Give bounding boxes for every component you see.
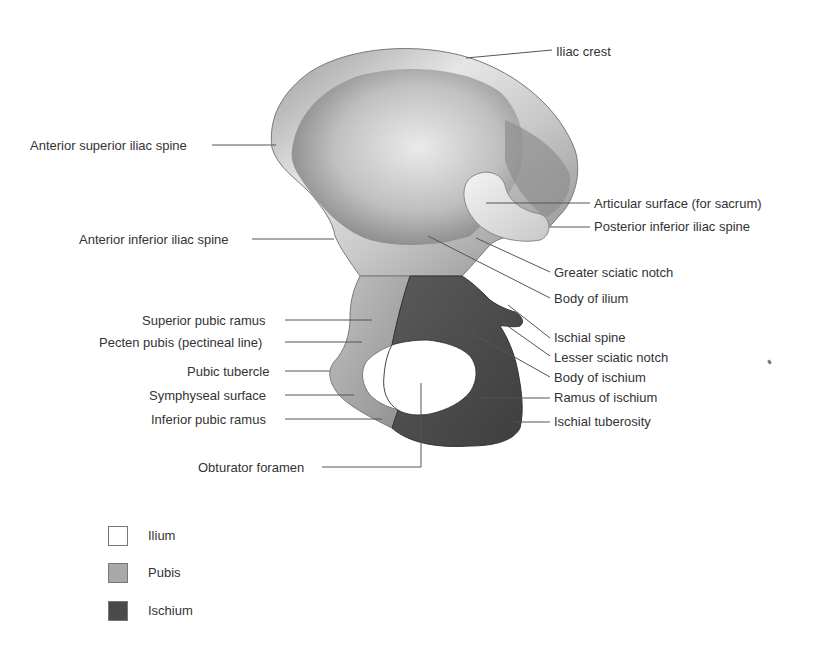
label-body-of-ischium: Body of ischium [554, 370, 646, 385]
label-obturator-foramen: Obturator foramen [198, 460, 304, 475]
label-pecten-pubis: Pecten pubis (pectineal line) [99, 335, 262, 350]
label-lesser-sciatic-notch: Lesser sciatic notch [554, 350, 668, 365]
legend-label: Ilium [148, 528, 175, 543]
label-articular-surface: Articular surface (for sacrum) [594, 196, 762, 211]
label-greater-sciatic-notch: Greater sciatic notch [554, 265, 673, 280]
legend-label: Ischium [148, 603, 193, 618]
label-iliac-crest: Iliac crest [556, 44, 611, 59]
label-symphyseal-surface: Symphyseal surface [149, 388, 266, 403]
label-ramus-of-ischium: Ramus of ischium [554, 390, 657, 405]
legend-label: Pubis [148, 565, 181, 580]
ischium-swatch [108, 601, 128, 621]
label-body-of-ilium: Body of ilium [554, 291, 628, 306]
ilium-swatch [108, 526, 128, 546]
label-ischial-spine: Ischial spine [554, 330, 626, 345]
label-anterior-superior-iliac-spine: Anterior superior iliac spine [30, 138, 187, 153]
hip-bone-diagram [0, 0, 819, 646]
pubis-swatch [108, 563, 128, 583]
label-posterior-inferior-iliac-spine: Posterior inferior iliac spine [594, 219, 750, 234]
label-superior-pubic-ramus: Superior pubic ramus [142, 313, 266, 328]
label-ischial-tuberosity: Ischial tuberosity [554, 414, 651, 429]
ilium-region [271, 49, 577, 276]
label-anterior-inferior-iliac-spine: Anterior inferior iliac spine [79, 232, 229, 247]
label-pubic-tubercle: Pubic tubercle [187, 364, 269, 379]
label-inferior-pubic-ramus: Inferior pubic ramus [151, 412, 266, 427]
